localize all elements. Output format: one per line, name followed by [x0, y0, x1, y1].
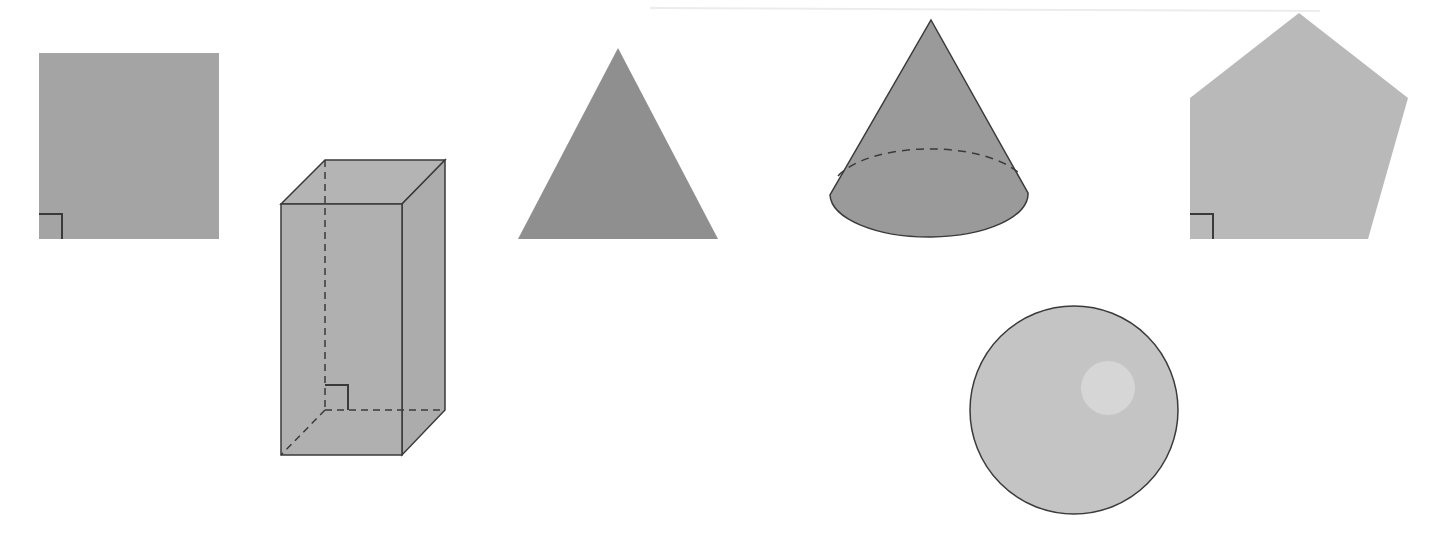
shapes-figure: Geometric shapes Square Rectangular pris… — [0, 0, 1438, 545]
square-shape: Square — [39, 53, 219, 239]
pentagon-shape: Pentagon — [1190, 13, 1408, 239]
scan-artifact-line — [650, 8, 1320, 11]
sphere-shape: Sphere — [970, 306, 1178, 514]
cone-shape: Cone — [830, 20, 1028, 237]
rectangular-prism-shape: Rectangular prism — [281, 160, 445, 455]
triangle-shape: Triangle — [518, 48, 718, 239]
sphere-highlight — [1081, 361, 1135, 415]
